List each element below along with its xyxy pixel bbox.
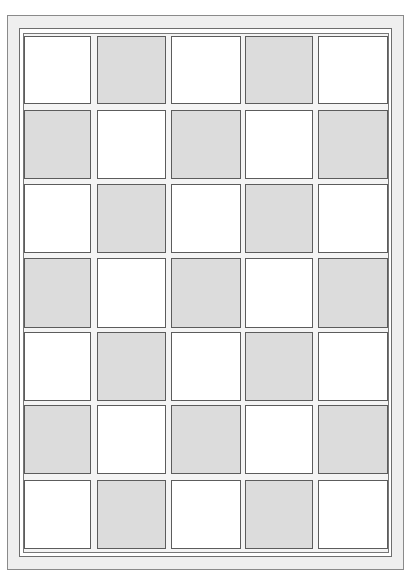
- grid-cell-r3-c3: [171, 184, 241, 253]
- grid-cell-r4-c5: [318, 258, 388, 328]
- grid-cell-r5-c2: [97, 332, 166, 401]
- grid-cell-r4-c4: [245, 258, 313, 328]
- grid-cell-r3-c2: [97, 184, 166, 253]
- grid-cell-r2-c3: [171, 110, 241, 179]
- grid-cell-r3-c4: [245, 184, 313, 253]
- grid-cell-r1-c5: [318, 36, 388, 104]
- grid-cell-r7-c3: [171, 480, 241, 549]
- grid-cell-r3-c5: [318, 184, 388, 253]
- grid-cell-r3-c1: [24, 184, 91, 253]
- grid-cell-r2-c4: [245, 110, 313, 179]
- grid-cell-r2-c2: [97, 110, 166, 179]
- grid-cell-r5-c3: [171, 332, 241, 401]
- grid-cell-r1-c1: [24, 36, 91, 104]
- grid-cell-r2-c5: [318, 110, 388, 179]
- grid-cell-r1-c3: [171, 36, 241, 104]
- grid-cell-r4-c2: [97, 258, 166, 328]
- grid-cell-r1-c2: [97, 36, 166, 104]
- grid-cell-r5-c5: [318, 332, 388, 401]
- grid-cell-r6-c3: [171, 405, 241, 474]
- grid-cell-r7-c5: [318, 480, 388, 549]
- grid-cell-r6-c4: [245, 405, 313, 474]
- grid-cell-r7-c2: [97, 480, 166, 549]
- grid-cell-r5-c1: [24, 332, 91, 401]
- grid-cell-r4-c3: [171, 258, 241, 328]
- grid-cell-r4-c1: [24, 258, 91, 328]
- grid-cell-r7-c4: [245, 480, 313, 549]
- grid-cell-r6-c5: [318, 405, 388, 474]
- grid-cell-r6-c1: [24, 405, 91, 474]
- grid-cell-r7-c1: [24, 480, 91, 549]
- grid-cell-r1-c4: [245, 36, 313, 104]
- grid-cell-r5-c4: [245, 332, 313, 401]
- grid-cell-r2-c1: [24, 110, 91, 179]
- grid-cell-r6-c2: [97, 405, 166, 474]
